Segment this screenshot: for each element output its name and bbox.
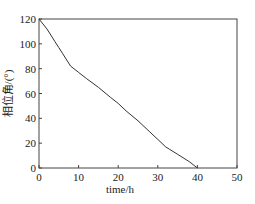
- y-tick-label: 120: [20, 13, 37, 25]
- y-tick-label: 80: [25, 63, 37, 75]
- x-tick-label: 10: [73, 171, 85, 183]
- data-line: [39, 19, 197, 168]
- y-tick-label: 20: [25, 137, 37, 149]
- x-tick-label: 20: [113, 171, 125, 183]
- chart: 01020304050020406080100120time/h相位角/(°): [0, 0, 255, 204]
- plot-frame: [39, 19, 237, 168]
- y-tick-label: 40: [25, 112, 37, 124]
- x-axis-title: time/h: [106, 183, 135, 195]
- x-tick-label: 30: [152, 171, 164, 183]
- x-tick-label: 50: [232, 171, 244, 183]
- y-tick-label: 0: [31, 162, 37, 174]
- y-axis-title: 相位角/(°): [1, 69, 15, 117]
- x-tick-label: 40: [192, 171, 204, 183]
- y-tick-label: 100: [20, 38, 37, 50]
- x-tick-label: 0: [36, 171, 42, 183]
- y-tick-label: 60: [25, 88, 37, 100]
